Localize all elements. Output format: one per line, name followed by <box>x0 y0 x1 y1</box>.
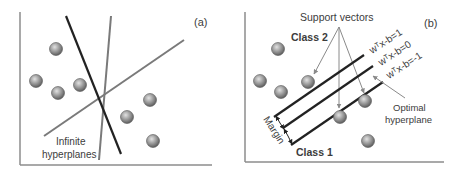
margin-label: Margin <box>261 114 287 146</box>
hyperplanes-label: hyperplanes <box>42 149 96 160</box>
optimal-label: Optimal <box>393 102 426 113</box>
panel-a: (a) Infinite hyperplanes <box>20 12 212 165</box>
support-vectors-label: Support vectors <box>300 11 374 23</box>
panel-b-tag: (b) <box>424 17 437 29</box>
class2-label: Class 2 <box>291 31 328 43</box>
class1-label: Class 1 <box>296 146 333 158</box>
panel-b: (b) Support vectors Class 2 Margin Optim… <box>245 11 444 162</box>
hyperplane-label: hyperplane <box>385 114 432 125</box>
panel-a-tag: (a) <box>194 16 207 28</box>
infinite-label: Infinite <box>56 136 86 147</box>
hyperplane-gray-vertical <box>99 16 111 160</box>
hyperplane-gray-diagonal <box>44 40 184 136</box>
